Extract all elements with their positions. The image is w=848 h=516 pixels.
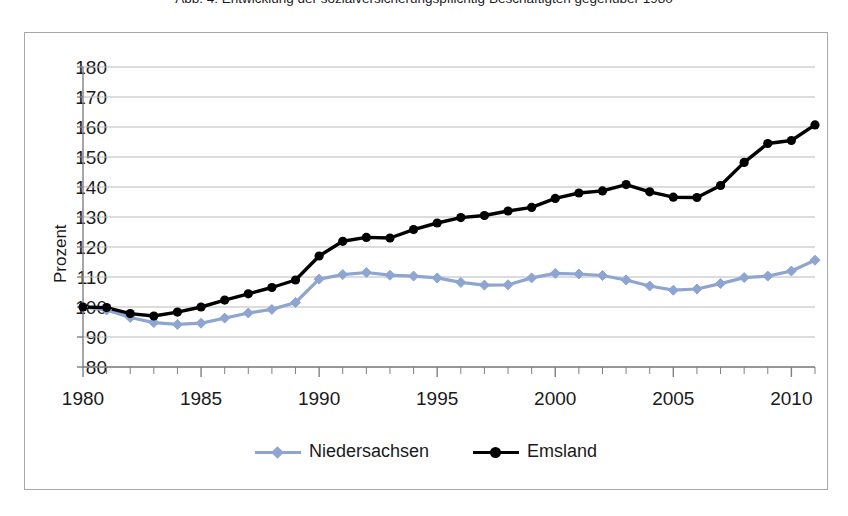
x-tick-label: 2010	[770, 389, 812, 408]
plot-area: Prozent 1801701601501401301201101009080 …	[25, 33, 827, 489]
legend-swatch-icon	[255, 445, 301, 459]
legend-label: Emsland	[527, 441, 597, 462]
legend-label: Niedersachsen	[309, 441, 429, 462]
legend-entry-emsland[interactable]: Emsland	[473, 441, 597, 462]
legend-swatch-icon	[473, 445, 519, 459]
figure-caption-cropped: Abb. 4: Entwicklung der sozialversicheru…	[0, 0, 848, 7]
x-tick-label: 2005	[652, 389, 694, 408]
x-tick-label: 1995	[416, 389, 458, 408]
legend-diamond-marker-icon	[271, 446, 284, 459]
x-tick-label: 1990	[298, 389, 340, 408]
x-tick-label: 1980	[62, 389, 104, 408]
chart-frame: Prozent 1801701601501401301201101009080 …	[24, 32, 828, 490]
legend-entry-niedersachsen[interactable]: Niedersachsen	[255, 441, 429, 462]
chart-page: Abb. 4: Entwicklung der sozialversicheru…	[0, 0, 848, 516]
x-tick-label: 2000	[534, 389, 576, 408]
x-tick-label: 1985	[180, 389, 222, 408]
chart-legend: NiedersachsenEmsland	[25, 441, 827, 462]
legend-circle-marker-icon	[490, 447, 501, 458]
x-axis-tick-labels: 1980198519901995200020052010	[25, 33, 827, 489]
